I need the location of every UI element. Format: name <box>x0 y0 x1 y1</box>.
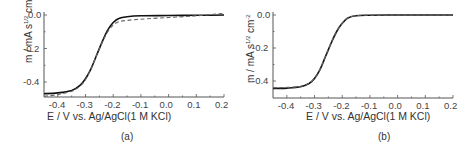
experimental-curve <box>273 15 453 88</box>
y-tick-label: 0.0 <box>257 9 270 20</box>
x-tick-label: 0.2 <box>215 99 228 110</box>
x-tick-label: -0.2 <box>333 100 349 111</box>
x-tick-label: -0.4 <box>278 100 294 111</box>
y-tick-label: -0.2 <box>23 43 39 54</box>
x-axis-label-b: E / V vs. Ag/AgCl(1 M KCl) <box>306 110 430 122</box>
x-tick-label: 0.1 <box>416 100 429 111</box>
x-tick-label: -0.1 <box>132 99 148 110</box>
y-tick-label: 0.0 <box>28 9 41 20</box>
x-axis-label-a: E / V vs. Ag/AgCl(1 M KCl) <box>47 110 171 122</box>
x-tick-label: -0.4 <box>49 99 65 110</box>
x-tick-label: -0.3 <box>77 99 93 110</box>
x-tick-label: 0.0 <box>389 100 402 111</box>
y-tick-label: -0.2 <box>252 42 268 53</box>
x-tick-label: 0.2 <box>444 100 457 111</box>
x-tick-label: 0.1 <box>187 99 200 110</box>
y-label-unit: cm <box>245 20 256 36</box>
fit-curve <box>273 15 453 88</box>
experimental-curve <box>44 15 224 94</box>
y-label-sup: -2 <box>245 14 251 19</box>
plot-area-a <box>0 0 233 150</box>
panel-label-a: (a) <box>121 131 133 142</box>
chart-panel-a: m / mA s1/2 cm-2 E / V vs. Ag/AgCl(1 M K… <box>0 0 233 150</box>
x-tick-label: -0.3 <box>306 100 322 111</box>
y-tick-label: -0.4 <box>252 75 268 86</box>
x-tick-label: -0.2 <box>104 99 120 110</box>
y-tick-label: -0.4 <box>23 76 39 87</box>
panel-label-b: (b) <box>378 131 390 142</box>
y-label-sup: 1/2 <box>245 36 251 44</box>
fit-curve <box>44 13 224 96</box>
chart-panel-b: m / mA s1/2 cm-2 E / V vs. Ag/AgCl(1 M K… <box>233 0 466 150</box>
x-tick-label: -0.1 <box>361 100 377 111</box>
x-tick-label: 0.0 <box>160 99 173 110</box>
